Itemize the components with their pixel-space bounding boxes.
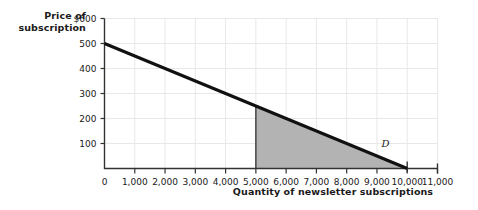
y-tick-label: 200 <box>53 114 97 124</box>
y-tick-label: 500 <box>53 39 97 49</box>
x-tick-label: 11,000 <box>415 177 461 187</box>
demand-curve-label: D <box>382 138 390 149</box>
y-tick-label: $600 <box>53 14 97 24</box>
x-axis-title: Quantity of newsletter subscriptions <box>188 186 478 197</box>
y-tick-label: 100 <box>53 139 97 149</box>
y-tick-label: 400 <box>53 64 97 74</box>
y-tick-label: 300 <box>53 89 97 99</box>
chart-figure: Price of subscription $60050040030020010… <box>0 0 478 210</box>
